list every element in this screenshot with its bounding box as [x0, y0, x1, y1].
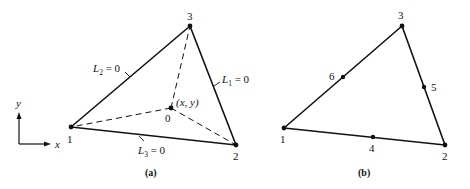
vertex-label-3-b: 3 [398, 9, 404, 21]
vertex-3-a [188, 24, 193, 29]
node-label-4: 4 [369, 142, 375, 154]
vertex-label-3-a: 3 [187, 10, 193, 22]
y-arrow-icon [17, 112, 22, 119]
node-6 [341, 75, 345, 79]
node-5 [422, 85, 426, 89]
interior-point-label: 0 [165, 112, 171, 124]
triangle-b [284, 26, 445, 145]
caption-a: (a) [145, 167, 157, 179]
dashed-subdivision-lines [71, 26, 236, 145]
vertex-2-b [443, 143, 448, 148]
vertex-3-b [400, 24, 405, 29]
vertex-2-a [234, 143, 239, 148]
vertex-1-a [69, 125, 74, 130]
x-arrow-icon [44, 142, 51, 147]
vertex-label-2-a: 2 [233, 150, 239, 162]
vertex-1-b [282, 126, 287, 131]
node-label-6: 6 [329, 70, 335, 82]
y-axis-label: y [15, 97, 21, 109]
panel-b: 1 2 3 4 5 6 (b) [280, 9, 448, 179]
coordinate-axes: y x [15, 97, 60, 150]
edge-label-l1: L1 = 0 [221, 73, 250, 88]
node-4 [371, 135, 375, 139]
triangle-a [71, 26, 236, 145]
caption-b: (b) [358, 167, 370, 179]
node-label-5: 5 [431, 81, 437, 93]
leader-l2 [125, 72, 130, 77]
triangle-element-figure: y x 1 2 3 0 (x, y) [0, 0, 470, 189]
x-axis-label: x [54, 138, 60, 150]
leader-l1 [214, 82, 220, 86]
vertex-label-1-a: 1 [67, 133, 73, 145]
edge-label-l3: L3 = 0 [137, 144, 166, 159]
panel-a: y x 1 2 3 0 (x, y) [15, 10, 250, 179]
vertex-label-2-b: 2 [442, 150, 448, 162]
interior-coord-label: (x, y) [176, 96, 199, 109]
leader-l3 [139, 136, 144, 141]
edge-label-l2: L2 = 0 [92, 62, 121, 77]
vertex-label-1-b: 1 [280, 133, 286, 145]
interior-point [169, 106, 174, 111]
